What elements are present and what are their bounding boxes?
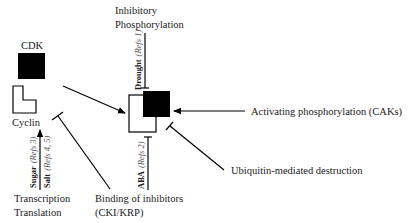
cyclin-shape: [13, 86, 36, 113]
salt-label: Salt(Refs 4, 5): [42, 135, 52, 188]
cyclin-label: Cyclin: [12, 117, 41, 128]
binding-tbar: [52, 112, 63, 120]
binding-label-2: (CKI/KRP): [95, 207, 144, 219]
cdk-block: [18, 53, 45, 79]
cdk-regulation-diagram: CDK Cyclin Inhibitory Phosphorylation Dr…: [0, 0, 411, 223]
aba-label: ABA(Refs 2): [136, 141, 146, 189]
drought-label: Drought(Refs 1): [133, 30, 143, 90]
transcription-label-1: Transcription: [14, 193, 71, 204]
ubiquitin-tbar: [166, 122, 173, 130]
activating-label: Activating phosphorylation (CAKs): [251, 106, 403, 118]
inhibitory-label-1: Inhibitory: [115, 5, 158, 16]
complex-cdk: [143, 91, 170, 117]
transcription-label-2: Translation: [14, 207, 62, 218]
inhibitory-label-2: Phosphorylation: [115, 19, 185, 30]
ubiquitin-label: Ubiquitin-mediated destruction: [231, 165, 363, 176]
cdk-label: CDK: [21, 40, 44, 51]
sugar-label: Sugar(Refs 3): [28, 136, 38, 188]
association-arrow: [63, 86, 125, 113]
ubiquitin-line: [170, 126, 224, 170]
binding-line: [58, 116, 110, 189]
binding-label-1: Binding of inhibitors: [95, 193, 183, 204]
